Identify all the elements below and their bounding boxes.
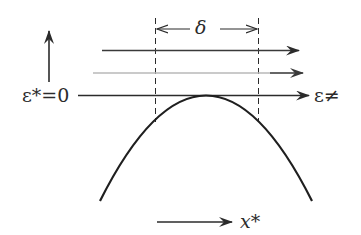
tunneling-barrier-diagram: ε*=0 ε≠ δ x* <box>0 0 361 235</box>
delta-label: δ <box>195 18 206 37</box>
energy-level-arrows <box>78 51 309 96</box>
diagram-canvas <box>0 0 361 235</box>
barrier-parabola <box>100 96 312 202</box>
coordinate-label: x* <box>240 212 260 231</box>
energy-axis-label: ε≠ <box>314 86 340 105</box>
energy-zero-label: ε*=0 <box>22 86 69 105</box>
